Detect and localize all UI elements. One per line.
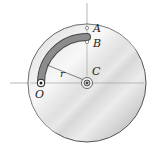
hub-c-center xyxy=(86,82,88,84)
pin-o-center xyxy=(40,82,43,85)
point-a-marker xyxy=(85,26,88,29)
point-b-marker xyxy=(85,40,88,43)
label-o: O xyxy=(35,88,44,101)
label-c: C xyxy=(92,65,101,78)
label-b: B xyxy=(92,37,101,50)
label-a: A xyxy=(92,22,101,35)
disc-diagram: A B C O r xyxy=(0,0,155,148)
